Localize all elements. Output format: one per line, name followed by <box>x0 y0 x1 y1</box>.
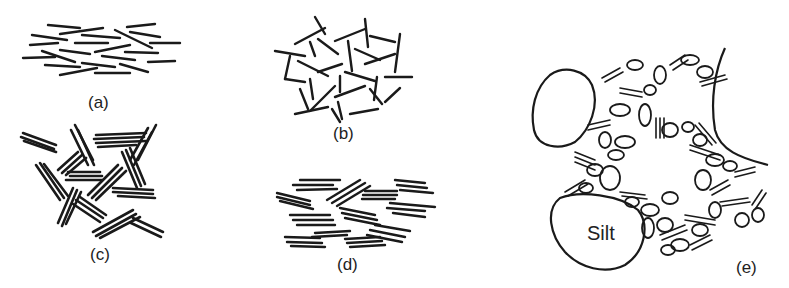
panel-c-drawing <box>18 120 178 240</box>
panel-b-label: (b) <box>333 124 354 144</box>
panel-a-drawing <box>20 18 190 88</box>
panel-c: (c) <box>18 120 178 280</box>
panel-e-label: (e) <box>736 258 757 278</box>
panel-c-label: (c) <box>90 245 110 265</box>
panel-e: Silt <box>520 30 789 288</box>
void-boundary <box>713 48 768 165</box>
silt-grain-upper <box>533 70 595 147</box>
panel-a: (a) <box>20 18 190 118</box>
panel-d-label: (d) <box>337 255 358 275</box>
panel-e-drawing: Silt <box>520 30 789 288</box>
panel-d: (d) <box>275 175 445 280</box>
panel-b: (b) <box>270 14 420 149</box>
panel-d-drawing <box>275 175 445 250</box>
panel-b-drawing <box>270 14 420 124</box>
silt-label: Silt <box>587 222 615 244</box>
panel-a-label: (a) <box>88 93 109 113</box>
